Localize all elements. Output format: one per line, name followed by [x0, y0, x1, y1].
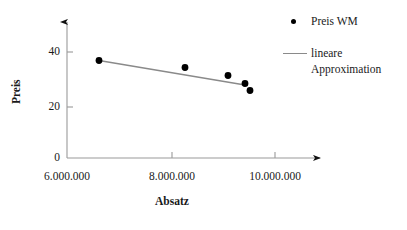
data-point	[247, 87, 254, 94]
x-axis-ticks	[172, 152, 275, 158]
data-point	[225, 72, 232, 79]
data-point	[182, 64, 189, 71]
data-point	[242, 80, 249, 87]
legend-item-preis-wm: Preis WM	[283, 14, 407, 30]
trendline-lineare-approximation	[99, 61, 248, 86]
data-points-preis-wm	[96, 57, 254, 94]
legend-marker-line-icon	[283, 46, 311, 60]
x-axis-title: Absatz	[67, 196, 277, 208]
y-axis-title: Preis	[11, 62, 23, 122]
legend-label-preis-wm: Preis WM	[311, 14, 358, 30]
legend-marker-dot-icon	[283, 14, 311, 28]
y-tick-label-40: 40	[26, 46, 60, 58]
y-tick-label-20: 20	[26, 101, 60, 113]
legend-item-lineare-approximation: lineare Approximation	[283, 46, 407, 78]
chart-legend: Preis WM lineare Approximation	[283, 14, 407, 94]
x-tick-label-10000000: 10.000.000	[228, 171, 322, 183]
legend-label-lineare-approximation: lineare Approximation	[311, 46, 381, 78]
data-point	[96, 57, 103, 64]
x-tick-label-8000000: 8.000.000	[127, 171, 217, 183]
y-tick-label-0: 0	[26, 152, 60, 164]
chart-container: 40 20 0 6.000.000 8.000.000 10.000.000 P…	[0, 0, 407, 230]
x-tick-label-6000000: 6.000.000	[22, 171, 112, 183]
y-axis-ticks	[67, 52, 73, 107]
